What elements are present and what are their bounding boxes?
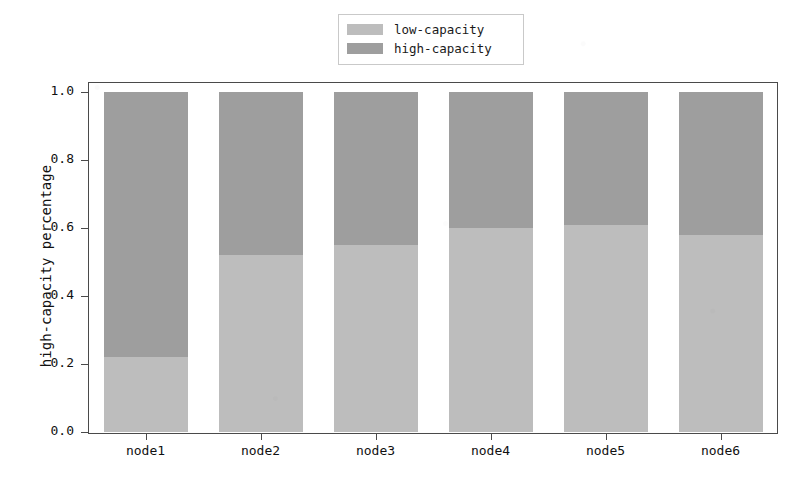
legend-item-low-capacity[interactable]: low-capacity [347,20,515,39]
bar-segment-high-capacity[interactable] [564,92,648,225]
bar-group[interactable] [334,92,418,432]
color-swatch-icon [347,43,383,54]
x-axis-tick-label: node4 [441,443,541,458]
y-axis-title: high-capacity percentage [38,136,54,396]
bar-segment-low-capacity[interactable] [449,228,533,432]
legend-item-high-capacity[interactable]: high-capacity [347,39,515,58]
x-axis-tick [261,434,262,440]
legend-label: low-capacity [394,22,484,37]
y-axis-tick-label: 0.0 [14,423,74,438]
x-axis-tick [606,434,607,440]
y-axis-tick [81,92,88,93]
x-axis-tick [721,434,722,440]
color-swatch-icon [347,24,383,35]
legend-label: high-capacity [394,41,492,56]
x-axis-tick-label: node3 [326,443,426,458]
bar-segment-high-capacity[interactable] [449,92,533,228]
bar-group[interactable] [449,92,533,432]
bar-segment-high-capacity[interactable] [334,92,418,245]
bar-group[interactable] [219,92,303,432]
bar-segment-high-capacity[interactable] [679,92,763,235]
x-axis-tick-label: node6 [671,443,771,458]
bar-segment-low-capacity[interactable] [219,255,303,432]
x-axis-tick [491,434,492,440]
x-axis-tick-label: node1 [96,443,196,458]
bar-segment-high-capacity[interactable] [104,92,188,357]
x-axis-tick-label: node2 [211,443,311,458]
y-axis-tick [81,228,88,229]
y-axis-tick [81,160,88,161]
chart-legend: low-capacity high-capacity [338,14,524,65]
bar-group[interactable] [564,92,648,432]
bar-segment-low-capacity[interactable] [564,225,648,432]
y-axis-tick [81,432,88,433]
y-axis-tick [81,296,88,297]
bar-group[interactable] [104,92,188,432]
bar-segment-low-capacity[interactable] [334,245,418,432]
y-axis-tick [81,364,88,365]
bar-segment-low-capacity[interactable] [104,357,188,432]
x-axis-tick-label: node5 [556,443,656,458]
bar-segment-high-capacity[interactable] [219,92,303,255]
x-axis-tick [376,434,377,440]
chart-figure: low-capacity high-capacity 0.00.20.40.60… [0,0,810,486]
y-axis-tick-label: 1.0 [14,83,74,98]
bar-segment-low-capacity[interactable] [679,235,763,432]
bars-container [88,92,778,432]
bar-group[interactable] [679,92,763,432]
x-axis-tick [146,434,147,440]
